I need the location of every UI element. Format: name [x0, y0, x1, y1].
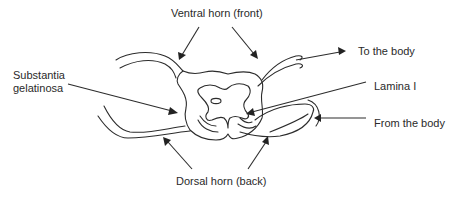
lamina-i-label: Lamina I: [374, 80, 416, 93]
ventral-horn-right-arrow: [232, 27, 258, 59]
substantia-gelatinosa-arrow: [68, 84, 178, 115]
to-the-body-label: To the body: [358, 45, 415, 58]
spinal-cord-diagram: Ventral horn (front) To the body Substan…: [0, 0, 456, 199]
grey-matter: [198, 84, 250, 128]
ventral-horn-label: Ventral horn (front): [171, 7, 263, 20]
ventral-horn-left-arrow: [178, 27, 199, 60]
substantia-gelatinosa-label-line2: gelatinosa: [13, 82, 63, 95]
spinal-cord-drawing: [0, 0, 456, 199]
from-the-body-label: From the body: [374, 117, 445, 130]
left-dorsal-root: [98, 106, 190, 138]
substantia-gelatinosa-label-line1: Substantia: [13, 69, 65, 82]
left-ventral-root: [116, 53, 183, 78]
lamina-i-arrow: [246, 82, 366, 116]
to-the-body-arrow: [296, 47, 346, 60]
spinal-cord-outline: [177, 71, 263, 140]
dorsal-horn-label: Dorsal horn (back): [176, 175, 266, 188]
dorsal-horn-left-arrow: [163, 137, 192, 169]
dorsal-horn-right-arrow: [248, 136, 269, 169]
from-the-body-arrow: [314, 114, 366, 122]
right-ventral-root: [258, 56, 303, 86]
